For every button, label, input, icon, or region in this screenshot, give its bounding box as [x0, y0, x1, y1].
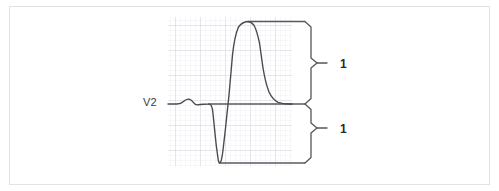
ecg-figure: V2 1 1	[0, 0, 499, 191]
lead-label-v2: V2	[143, 96, 157, 108]
lower-measurement-brace	[305, 104, 327, 163]
upper-measurement-brace	[305, 22, 327, 105]
ecg-grid-paper	[160, 10, 305, 175]
upper-brace-label: 1	[340, 57, 347, 71]
ecg-diagram	[0, 0, 499, 191]
lower-brace-label: 1	[340, 122, 347, 136]
